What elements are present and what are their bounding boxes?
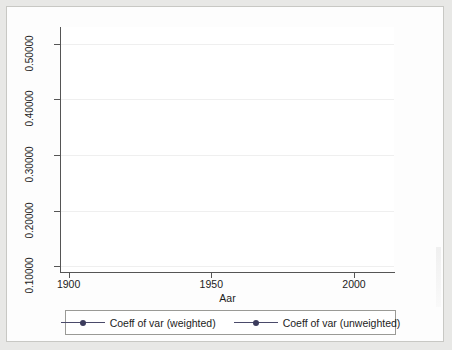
legend-label-weighted: Coeff of var (weighted) xyxy=(105,317,216,329)
y-tick-mark xyxy=(54,155,60,156)
plot-background xyxy=(60,27,394,272)
x-tick-label: 2000 xyxy=(342,278,365,290)
y-axis-line xyxy=(60,27,61,273)
y-tick-mark xyxy=(54,211,60,212)
x-tick-label: 1900 xyxy=(57,278,80,290)
gridline xyxy=(60,99,394,100)
x-axis-line xyxy=(60,272,395,273)
y-tick-mark xyxy=(54,44,60,45)
circle-marker-icon xyxy=(80,320,86,326)
gridline xyxy=(60,211,394,212)
gridline xyxy=(60,266,394,267)
circle-marker-icon xyxy=(253,320,259,326)
legend: Coeff of var (weighted) Coeff of var (un… xyxy=(65,310,396,335)
legend-key-unweighted xyxy=(234,318,278,328)
gridline xyxy=(60,44,394,45)
y-tick-mark xyxy=(54,266,60,267)
plot-area xyxy=(60,27,394,272)
scan-edge-artifact xyxy=(436,247,441,307)
gridline xyxy=(60,155,394,156)
legend-entry-weighted[interactable]: Coeff of var (weighted) xyxy=(61,317,216,329)
x-axis-title: Aar xyxy=(60,292,395,304)
legend-key-weighted xyxy=(61,318,105,328)
legend-label-unweighted: Coeff of var (unweighted) xyxy=(278,317,401,329)
y-tick-mark xyxy=(54,99,60,100)
legend-entry-unweighted[interactable]: Coeff of var (unweighted) xyxy=(234,317,401,329)
x-tick-label: 1950 xyxy=(200,278,223,290)
graph-card: 0.100000.200000.300000.400000.50000 1900… xyxy=(6,6,444,342)
figure-container: 0.100000.200000.300000.400000.50000 1900… xyxy=(0,0,452,350)
